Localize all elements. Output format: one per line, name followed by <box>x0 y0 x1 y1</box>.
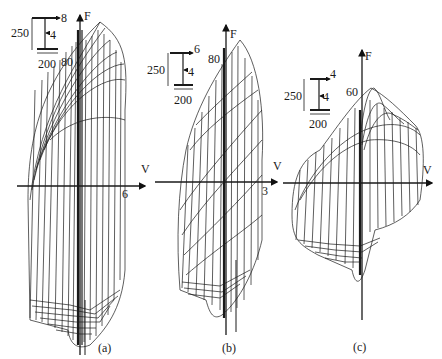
panel-a-flange-thickness: 8 <box>61 12 67 24</box>
panel-a-x-tick: 6 <box>122 188 128 200</box>
panel-b-y-tick: 80 <box>208 53 220 65</box>
panel-a-plot <box>17 15 145 355</box>
panel-b-section-height: 250 <box>147 64 165 76</box>
panel-a-section-height: 250 <box>11 27 29 39</box>
panel-b-section-width: 200 <box>174 94 192 106</box>
panel-c-section-height: 250 <box>284 90 302 102</box>
panel-b-web-thickness: 4 <box>188 66 194 78</box>
panel-a-y-axis-label: F <box>84 10 91 22</box>
panel-c-y-axis-label: F <box>365 50 372 62</box>
panel-b-plot <box>155 25 277 335</box>
panel-c-flange-thickness: 4 <box>330 68 336 80</box>
panel-a-web-thickness: 4 <box>50 29 56 41</box>
panel-b-x-tick: 3 <box>262 185 268 197</box>
panel-c-y-tick: 60 <box>346 86 358 98</box>
panel-a-caption: (a) <box>98 342 111 354</box>
panel-b-y-axis-label: F <box>230 28 237 40</box>
panel-c-caption: (c) <box>353 341 366 353</box>
panel-a-y-tick: 80 <box>61 56 73 68</box>
panel-a-x-axis-label: V <box>141 163 150 175</box>
panel-b-caption: (b) <box>222 342 236 354</box>
panel-c-x-axis-label: V <box>423 164 432 176</box>
hysteresis-plots <box>0 0 442 359</box>
panel-a-section-width: 200 <box>38 58 56 70</box>
hysteresis-figure: F V 80 6 8 250 4 200 (a) F V 80 3 6 250 … <box>0 0 442 359</box>
panel-b-flange-thickness: 6 <box>194 43 200 55</box>
panel-c-section-width: 200 <box>309 118 327 130</box>
panel-c-web-thickness: 4 <box>323 91 329 103</box>
panel-b-x-axis-label: V <box>273 160 282 172</box>
